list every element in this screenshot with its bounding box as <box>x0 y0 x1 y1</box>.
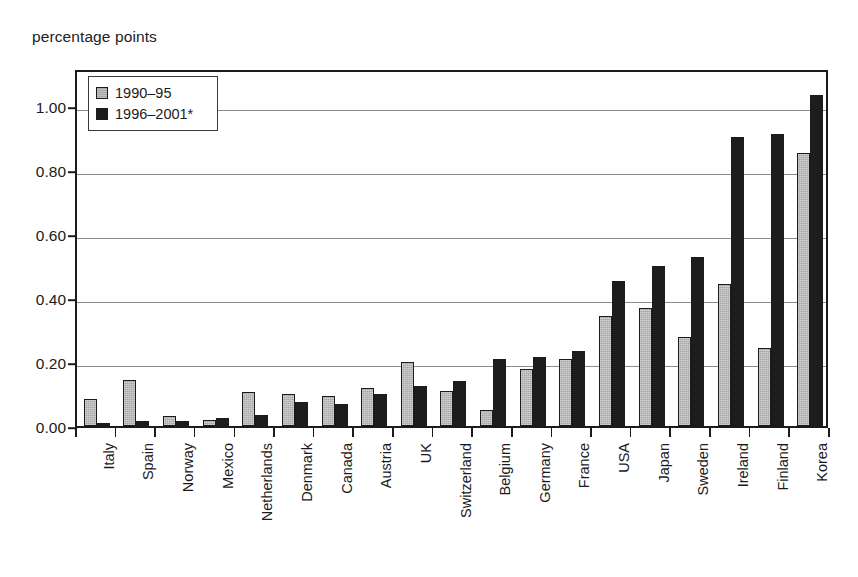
bar <box>612 281 625 426</box>
bar <box>639 308 652 426</box>
x-tick-label-norway: Norway <box>180 443 196 492</box>
y-tick-label-0.40: 0.40 <box>36 291 66 309</box>
x-tick-mark <box>828 428 830 437</box>
bar-group <box>671 72 711 426</box>
bar <box>559 359 572 426</box>
x-tick-label-switzerland: Switzerland <box>458 443 474 518</box>
legend-swatch-icon-0 <box>96 87 108 99</box>
x-tick-mark <box>511 428 513 437</box>
x-tick-label-sweden: Sweden <box>695 443 711 495</box>
y-tick-label-0.00: 0.00 <box>36 419 66 437</box>
x-tick-label-spain: Spain <box>140 443 156 480</box>
x-tick-mark <box>115 428 117 437</box>
x-tick-mark <box>392 428 394 437</box>
bar <box>480 410 493 426</box>
bar-group <box>751 72 791 426</box>
bar-group <box>434 72 474 426</box>
figure: percentage points 0.000.200.400.600.801.… <box>0 0 858 577</box>
bar <box>758 348 771 426</box>
bar-group <box>394 72 434 426</box>
x-tick-mark <box>471 428 473 437</box>
bar <box>255 415 268 426</box>
bar <box>414 386 427 426</box>
bar <box>374 394 387 426</box>
bar <box>401 362 414 426</box>
bar <box>335 404 348 426</box>
bar-group <box>632 72 672 426</box>
x-tick-label-canada: Canada <box>339 443 355 494</box>
bar <box>97 423 110 426</box>
bar <box>652 266 665 426</box>
x-tick-label-denmark: Denmark <box>299 443 315 502</box>
bar <box>295 402 308 426</box>
y-tick-label-0.20: 0.20 <box>36 355 66 373</box>
x-tick-mark <box>75 428 77 437</box>
bar-group <box>315 72 355 426</box>
x-tick-label-austria: Austria <box>378 443 394 488</box>
x-tick-label-mexico: Mexico <box>220 443 236 489</box>
x-tick-mark <box>313 428 315 437</box>
bar <box>440 391 453 426</box>
x-tick-mark <box>709 428 711 437</box>
bar <box>453 381 466 426</box>
x-tick-label-uk: UK <box>418 443 434 463</box>
bar <box>771 134 784 427</box>
legend-label-0: 1990–95 <box>115 85 171 101</box>
bar <box>361 388 374 426</box>
x-tick-mark <box>194 428 196 437</box>
x-tick-mark <box>788 428 790 437</box>
y-tick-label-0.60: 0.60 <box>36 227 66 245</box>
bar-group <box>711 72 751 426</box>
bar <box>797 153 810 426</box>
bar <box>520 369 533 427</box>
y-tick-label-0.80: 0.80 <box>36 163 66 181</box>
bar <box>572 351 585 426</box>
legend-item-1: 1996–2001* <box>96 103 210 124</box>
bar <box>533 357 546 426</box>
x-tick-label-finland: Finland <box>775 443 791 491</box>
y-axis: 0.000.200.400.600.801.00 <box>0 0 66 577</box>
x-tick-mark <box>669 428 671 437</box>
legend-swatch-icon-1 <box>96 108 108 120</box>
x-tick-label-germany: Germany <box>537 443 553 503</box>
x-tick-mark <box>234 428 236 437</box>
x-tick-label-usa: USA <box>616 443 632 473</box>
bar <box>176 421 189 426</box>
legend-label-1: 1996–2001* <box>115 106 193 122</box>
bar <box>163 416 176 426</box>
bar <box>493 359 506 426</box>
x-tick-label-belgium: Belgium <box>497 443 513 495</box>
x-tick-mark <box>273 428 275 437</box>
x-tick-label-ireland: Ireland <box>735 443 751 487</box>
bar <box>599 316 612 426</box>
bar <box>810 95 823 426</box>
x-tick-mark <box>551 428 553 437</box>
bar-group <box>354 72 394 426</box>
bar-group <box>513 72 553 426</box>
bar <box>216 418 229 426</box>
x-tick-mark <box>749 428 751 437</box>
bar <box>731 137 744 426</box>
bar <box>322 396 335 426</box>
bar <box>123 380 136 426</box>
bar <box>691 257 704 426</box>
bar-group <box>592 72 632 426</box>
bar <box>718 284 731 426</box>
x-tick-label-france: France <box>576 443 592 488</box>
y-tick-label-1.00: 1.00 <box>36 99 66 117</box>
bar <box>678 337 691 427</box>
bar <box>242 392 255 426</box>
bar <box>282 394 295 426</box>
bar-group <box>790 72 830 426</box>
bar-group <box>553 72 593 426</box>
bar <box>203 420 216 426</box>
legend-item-0: 1990–95 <box>96 82 210 103</box>
x-tick-label-japan: Japan <box>656 443 672 483</box>
bar-group <box>275 72 315 426</box>
x-tick-label-korea: Korea <box>814 443 830 482</box>
x-tick-mark <box>630 428 632 437</box>
bar <box>136 421 149 426</box>
x-tick-label-italy: Italy <box>101 443 117 470</box>
x-tick-mark <box>590 428 592 437</box>
x-tick-label-netherlands: Netherlands <box>259 443 275 521</box>
